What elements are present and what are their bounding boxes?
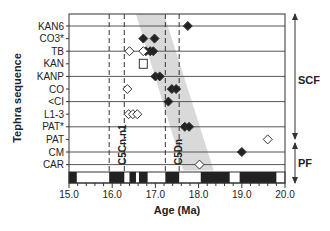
group-label-scf: SCF <box>298 74 320 86</box>
normal-polarity-block <box>240 172 277 183</box>
chron-label-c5dn: C5Dn <box>173 139 184 165</box>
open-diamond-marker <box>263 135 272 144</box>
normal-polarity-block <box>109 172 124 183</box>
arrow-down-icon <box>292 133 298 140</box>
tephra-age-chart: KAN6CO3*TBKANKANPCO<CIL1-3PAT*PATCMCAR 1… <box>0 0 330 231</box>
filled-diamond-marker <box>183 22 192 31</box>
x-tick-label: 20.0 <box>275 189 295 200</box>
y-tick-label: KAN6 <box>38 21 65 32</box>
x-axis-ticks: 15.016.017.018.019.020.0 <box>59 183 295 200</box>
y-axis-ticks: KAN6CO3*TBKANKANPCO<CIL1-3PAT*PATCMCAR <box>37 21 69 171</box>
chron-label-c5cn: C5Cn.n1 <box>117 124 128 165</box>
y-tick-label: KANP <box>37 71 65 82</box>
x-tick-label: 18.0 <box>189 189 209 200</box>
y-tick-label: CO <box>49 84 64 95</box>
y-tick-label: <CI <box>48 96 64 107</box>
x-axis-label: Age (Ma) <box>154 204 201 216</box>
x-tick-label: 15.0 <box>59 189 79 200</box>
y-tick-label: L1-3 <box>44 109 64 120</box>
y-tick-label: CAR <box>43 159 64 170</box>
x-tick-label: 19.0 <box>232 189 252 200</box>
x-tick-label: 17.0 <box>146 189 166 200</box>
y-tick-label: KAN <box>43 58 64 69</box>
square-marker <box>139 59 147 68</box>
normal-polarity-block <box>69 172 77 183</box>
y-tick-label: CO3* <box>40 33 65 44</box>
open-diamond-marker <box>123 85 132 94</box>
arrow-up-icon <box>292 142 298 149</box>
normal-polarity-block <box>165 172 179 183</box>
x-tick-label: 16.0 <box>102 189 122 200</box>
normal-polarity-block <box>129 172 135 183</box>
normal-polarity-block <box>201 172 230 183</box>
y-axis-label: Tephra sequence <box>11 53 23 143</box>
filled-diamond-marker <box>237 148 246 157</box>
y-tick-label: PAT* <box>42 121 64 132</box>
open-diamond-marker <box>125 47 134 56</box>
normal-polarity-block <box>139 172 148 183</box>
arrow-up-icon <box>292 13 298 20</box>
polarity-bar <box>69 172 285 183</box>
y-tick-label: CM <box>48 147 64 158</box>
y-tick-label: TB <box>51 46 64 57</box>
y-tick-label: PAT <box>46 134 64 145</box>
arrow-down-icon <box>292 177 298 184</box>
group-label-pf: PF <box>298 157 312 169</box>
